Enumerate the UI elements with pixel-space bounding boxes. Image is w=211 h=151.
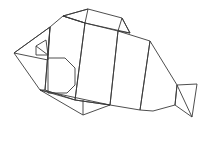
origami-fish-figure — [0, 0, 211, 151]
head — [14, 27, 50, 90]
tail-fin — [175, 84, 197, 117]
dorsal-fin — [63, 9, 130, 33]
body-white-band-2 — [110, 31, 150, 110]
gill-plate — [48, 58, 75, 93]
belly-fin — [40, 90, 110, 115]
body-shaded-tail-section — [140, 41, 177, 111]
fish-drawing — [0, 0, 211, 151]
